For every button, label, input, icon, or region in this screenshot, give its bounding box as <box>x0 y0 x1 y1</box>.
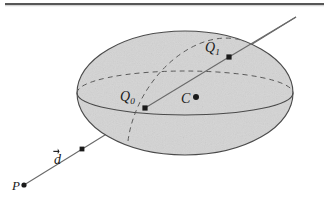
ray-sphere-intersection-figure: P Q0 C Q1 d <box>0 0 324 205</box>
point-marker-d-tick <box>80 147 85 152</box>
label-point-q0-text: Q <box>120 89 130 104</box>
label-point-q0: Q0 <box>120 90 135 106</box>
label-point-c-text: C <box>181 91 190 106</box>
figure-canvas <box>0 0 324 205</box>
label-point-q1: Q1 <box>205 41 220 57</box>
label-point-q1-text: Q <box>205 40 215 55</box>
point-marker-q0 <box>142 105 147 110</box>
top-rule-shadow <box>5 5 324 6</box>
point-marker-q1 <box>226 54 231 59</box>
label-vector-d: d <box>54 153 61 167</box>
top-rule <box>5 3 324 5</box>
point-marker-c <box>193 94 199 100</box>
point-marker-p <box>21 182 26 187</box>
label-vector-d-text: d <box>54 152 61 167</box>
vector-d-wrapper: d <box>54 153 61 167</box>
label-point-q0-subscript: 0 <box>130 96 135 106</box>
label-point-q1-subscript: 1 <box>215 47 220 57</box>
label-point-p: P <box>12 179 20 192</box>
vector-arrow-icon <box>53 147 60 154</box>
label-point-c: C <box>181 92 190 106</box>
label-point-p-text: P <box>12 178 20 193</box>
